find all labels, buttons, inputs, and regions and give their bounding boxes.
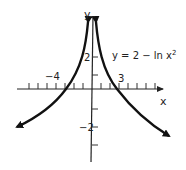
y-tick-label-neg2: −2 <box>79 122 94 133</box>
graph-canvas: y x −4 3 2 −2 <box>0 0 186 170</box>
equation-label: y = 2 − ln x2 <box>112 49 176 61</box>
curve-right-branch <box>96 22 169 136</box>
equation-main: y = 2 − ln x <box>112 50 172 61</box>
equation-exponent: 2 <box>172 49 176 57</box>
y-axis-label: y <box>84 8 91 21</box>
x-axis-label: x <box>160 95 167 108</box>
x-tick-label-neg4: −4 <box>45 71 60 82</box>
y-tick-label-2: 2 <box>84 52 90 63</box>
graph-figure: y x −4 3 2 −2 y = 2 − ln x2 <box>0 0 186 170</box>
x-tick-label-3: 3 <box>118 73 124 84</box>
x-axis <box>17 83 163 89</box>
